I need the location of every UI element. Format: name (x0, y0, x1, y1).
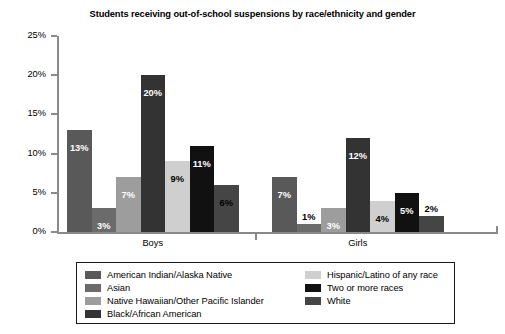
bar (297, 224, 322, 232)
legend-swatch-icon (85, 310, 101, 318)
bar-value-label: 12% (346, 152, 371, 161)
y-axis-tick-label: 5% (0, 188, 46, 197)
legend-item-label: Hispanic/Latino of any race (327, 270, 438, 280)
legend-item[interactable]: Native Hawaiian/Other Pacific Islander (85, 294, 305, 307)
bar-value-label: 6% (214, 199, 239, 208)
y-axis-tick (51, 192, 57, 194)
x-axis-group-label: Boys (103, 238, 203, 249)
legend: American Indian/Alaska NativeAsianNative… (76, 262, 455, 324)
y-axis-tick (51, 231, 57, 233)
legend-item-label: American Indian/Alaska Native (107, 270, 232, 280)
legend-swatch-icon (85, 297, 101, 305)
legend-item-label: Two or more races (327, 283, 403, 293)
y-axis-line (57, 36, 59, 233)
legend-item[interactable]: White (305, 294, 455, 307)
y-axis-tick-label: 10% (0, 149, 46, 158)
legend-column-left: American Indian/Alaska NativeAsianNative… (85, 268, 305, 320)
y-axis-tick-label: 0% (0, 227, 46, 236)
bar (141, 75, 166, 232)
bar (214, 185, 239, 232)
legend-column-right: Hispanic/Latino of any raceTwo or more r… (305, 268, 455, 307)
y-axis-tick (51, 35, 57, 37)
bar-value-label: 3% (321, 222, 346, 231)
legend-swatch-icon (305, 271, 321, 279)
legend-item-label: Native Hawaiian/Other Pacific Islander (107, 296, 264, 306)
bar-value-label: 7% (272, 191, 297, 200)
bar (419, 216, 444, 232)
legend-item[interactable]: American Indian/Alaska Native (85, 268, 305, 281)
bar-value-label: 1% (297, 213, 322, 222)
bar-value-label: 4% (370, 215, 395, 224)
legend-swatch-icon (85, 271, 101, 279)
legend-item[interactable]: Black/African American (85, 307, 305, 320)
bar (165, 161, 190, 232)
bar-value-label: 5% (395, 207, 420, 216)
y-axis-tick (51, 74, 57, 76)
y-axis-tick-label: 15% (0, 109, 46, 118)
x-axis-end-cap (496, 226, 498, 234)
legend-swatch-icon (305, 297, 321, 305)
y-axis-tick (51, 153, 57, 155)
bar-value-label: 11% (190, 160, 215, 169)
legend-item-label: Black/African American (107, 309, 202, 319)
x-axis-line (57, 232, 498, 234)
legend-item[interactable]: Hispanic/Latino of any race (305, 268, 455, 281)
legend-swatch-icon (85, 284, 101, 292)
suspensions-bar-chart: Students receiving out-of-school suspens… (0, 0, 505, 334)
x-axis-group-label: Girls (308, 238, 408, 249)
bar-value-label: 9% (165, 175, 190, 184)
legend-item[interactable]: Asian (85, 281, 305, 294)
legend-item-label: White (327, 296, 351, 306)
chart-title: Students receiving out-of-school suspens… (0, 9, 505, 19)
bar (272, 177, 297, 232)
bar-value-label: 2% (419, 205, 444, 214)
bar-value-label: 20% (141, 89, 166, 98)
x-axis-group-divider-tick (255, 234, 257, 240)
legend-item[interactable]: Two or more races (305, 281, 455, 294)
legend-swatch-icon (305, 284, 321, 292)
bar-value-label: 3% (92, 222, 117, 231)
y-axis-tick (51, 113, 57, 115)
bar (116, 177, 141, 232)
y-axis-tick-label: 20% (0, 70, 46, 79)
y-axis-tick-label: 25% (0, 31, 46, 40)
bar-value-label: 7% (116, 191, 141, 200)
legend-item-label: Asian (107, 283, 130, 293)
bar-value-label: 13% (67, 144, 92, 153)
